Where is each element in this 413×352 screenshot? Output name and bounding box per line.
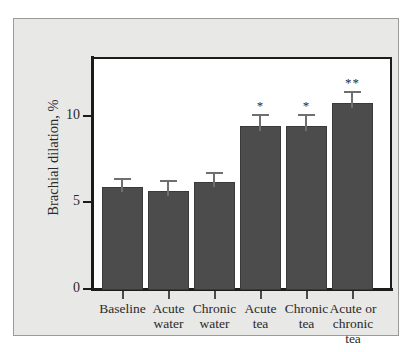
bar-acute-or-chronic-tea (332, 103, 373, 290)
figure-canvas: 10 5 0 Brachial dilation, % * (0, 0, 413, 352)
error-bar-cap-baseline (114, 178, 131, 180)
chart-panel: 10 5 0 Brachial dilation, % * (13, 18, 399, 336)
y-tick-mark-0 (83, 288, 92, 290)
error-bar-cap-acute-tea (252, 114, 269, 116)
error-bar-cap-acute-or-chronic-tea (344, 91, 361, 93)
x-tick-mark-2 (168, 291, 170, 299)
significance-marker-chronic-tea: * (292, 99, 321, 112)
x-tick-mark-4 (260, 291, 262, 299)
x-tick-mark-3 (214, 291, 216, 299)
y-tick-mark-5 (83, 201, 92, 203)
x-tick-mark-5 (306, 291, 308, 299)
error-bar-stem-acute-water (167, 180, 169, 196)
y-tick-label-0: 0 (24, 281, 80, 295)
y-axis-title: Brachial dilation, % (45, 63, 62, 253)
bar-acute-tea (240, 126, 281, 290)
bar-chronic-water (194, 182, 235, 290)
bar-chronic-tea (286, 126, 327, 290)
bar-baseline (102, 187, 143, 290)
error-bar-cap-acute-water (160, 180, 177, 182)
error-bar-cap-chronic-water (206, 172, 223, 174)
significance-marker-acute-or-chronic-tea: ** (338, 76, 367, 89)
error-bar-stem-chronic-water (213, 172, 215, 187)
error-bar-stem-baseline (121, 178, 123, 192)
significance-marker-acute-tea: * (246, 99, 275, 112)
error-bar-stem-acute-tea (259, 114, 261, 131)
error-bar-cap-chronic-tea (298, 114, 315, 116)
bar-acute-water (148, 191, 189, 290)
error-bar-stem-chronic-tea (305, 114, 307, 131)
y-axis-line (91, 56, 94, 291)
y-tick-mark-10 (83, 115, 92, 117)
x-tick-mark-1 (122, 291, 124, 299)
error-bar-stem-acute-or-chronic-tea (351, 91, 353, 108)
x-label-acute-or-chronic-tea: Acute or chronic tea (324, 301, 382, 346)
x-tick-mark-6 (352, 291, 354, 299)
